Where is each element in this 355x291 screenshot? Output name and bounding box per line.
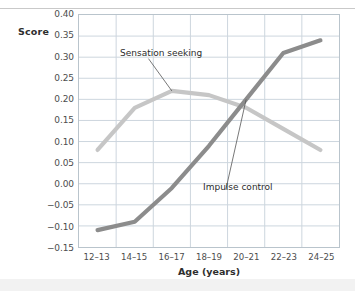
y-tick-label: 0.00 xyxy=(54,179,74,189)
y-tick-label: 0.35 xyxy=(54,30,74,40)
y-tick-label: −0.10 xyxy=(47,222,74,232)
y-tick-label: 0.10 xyxy=(54,137,74,147)
y-tick-label: 0.05 xyxy=(54,158,74,168)
y-tick-label: 0.20 xyxy=(54,94,74,104)
y-tick-label: −0.15 xyxy=(47,243,74,253)
x-tick-label: 20–21 xyxy=(233,252,259,262)
x-axis-tick-labels: 12–1314–1516–1718–1920–2122–2324–25 xyxy=(78,252,340,266)
series-line xyxy=(98,40,321,230)
y-axis-tick-labels: 0.400.350.300.250.200.150.100.050.00−0.0… xyxy=(30,14,74,248)
series-lines xyxy=(79,15,339,247)
y-tick-label: 0.15 xyxy=(54,115,74,125)
x-tick-label: 18–19 xyxy=(196,252,222,262)
y-tick-label: 0.25 xyxy=(54,73,74,83)
line-chart-figure: Score 0.400.350.300.250.200.150.100.050.… xyxy=(0,0,355,279)
plot-area xyxy=(78,14,340,248)
x-tick-label: 16–17 xyxy=(158,252,184,262)
annotation-sensation-seeking: Sensation seeking xyxy=(120,48,202,58)
bottom-band xyxy=(0,279,355,291)
x-axis-title: Age (years) xyxy=(78,266,340,277)
x-tick-label: 22–23 xyxy=(271,252,297,262)
y-tick-label: −0.05 xyxy=(47,200,74,210)
series-line xyxy=(98,91,321,150)
x-tick-label: 12–13 xyxy=(84,252,110,262)
x-tick-label: 24–25 xyxy=(308,252,334,262)
annotation-leader-line xyxy=(148,59,171,91)
figure-page: Score 0.400.350.300.250.200.150.100.050.… xyxy=(0,0,355,291)
y-tick-label: 0.30 xyxy=(54,52,74,62)
annotation-impulse-control: Impulse control xyxy=(203,182,273,192)
y-tick-label: 0.40 xyxy=(54,9,74,19)
x-tick-label: 14–15 xyxy=(121,252,147,262)
